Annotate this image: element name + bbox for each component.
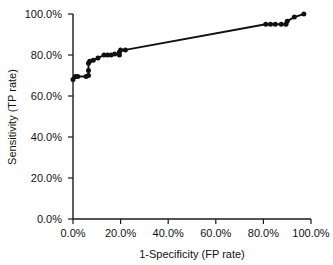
y-tick-label: 80.0% [31, 49, 62, 61]
roc-data-point [86, 73, 91, 78]
roc-data-point [123, 47, 128, 52]
y-tick-label: 20.0% [31, 172, 62, 184]
y-tick-label: 60.0% [31, 90, 62, 102]
y-axis-title: Sensitivity (TP rate) [6, 69, 18, 165]
roc-data-point [95, 56, 100, 61]
x-axis-title: 1-Specificity (FP rate) [139, 248, 245, 260]
x-tick-label: 40.0% [153, 227, 184, 239]
x-tick-label: 80.0% [248, 227, 279, 239]
roc-data-point [279, 22, 284, 27]
y-tick-label: 100.0% [25, 8, 63, 20]
roc-data-point [292, 15, 297, 20]
roc-plot-svg: 0.0%20.0%40.0%60.0%80.0%100.0% 0.0%20.0%… [0, 0, 333, 265]
roc-data-point [285, 19, 290, 24]
roc-data-point [112, 51, 117, 56]
x-tick-label: 0.0% [60, 227, 85, 239]
roc-data-point [301, 12, 306, 17]
roc-data-point [268, 22, 273, 27]
roc-data-point [118, 47, 123, 52]
y-tick-label: 0.0% [37, 213, 62, 225]
x-tick-label: 100.0% [292, 227, 330, 239]
roc-data-point [75, 74, 80, 79]
roc-data-point [273, 22, 278, 27]
y-tick-label: 40.0% [31, 131, 62, 143]
roc-data-point [91, 58, 96, 63]
x-tick-label: 60.0% [200, 227, 231, 239]
roc-chart: 0.0%20.0%40.0%60.0%80.0%100.0% 0.0%20.0%… [0, 0, 333, 265]
x-tick-label: 20.0% [105, 227, 136, 239]
roc-data-point [86, 68, 91, 73]
roc-data-point [263, 22, 268, 27]
